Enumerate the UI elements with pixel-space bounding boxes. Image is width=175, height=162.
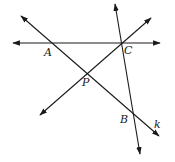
line-cb xyxy=(115,4,140,154)
line-pc xyxy=(40,18,151,115)
point-label-p: P xyxy=(81,76,90,89)
point-label-b: B xyxy=(119,113,128,126)
geometry-diagram: A C P B k xyxy=(0,0,175,162)
line-label-k: k xyxy=(154,118,161,131)
point-label-c: C xyxy=(124,44,133,57)
line-k xyxy=(21,16,159,136)
point-label-a: A xyxy=(43,46,52,59)
